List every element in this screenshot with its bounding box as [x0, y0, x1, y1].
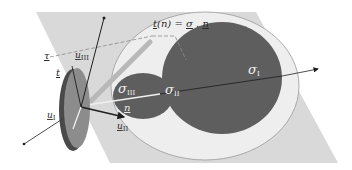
u-I-label: uI [47, 110, 56, 122]
t-label: t [56, 67, 61, 78]
u-I-vector [24, 118, 64, 144]
mohr-circle-sigma-I [162, 22, 282, 134]
diagram-canvas: t(n) = σ . n τ t uIII uII uI n σI σII σI… [0, 0, 352, 170]
tau-label: τ [44, 50, 50, 61]
stress-state-diagram: t(n) = σ . n τ t uIII uII uI n σI σII σI… [0, 0, 352, 170]
traction-label: t(n) = σ . n [153, 18, 209, 29]
n-label: n [124, 102, 130, 113]
